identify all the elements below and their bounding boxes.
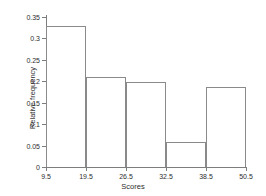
- x-tick-label: 9.5: [41, 173, 51, 180]
- x-tick-label: 50.5: [239, 173, 253, 180]
- y-tick-label: 0: [36, 164, 40, 171]
- x-tick-mark: [86, 167, 87, 171]
- x-tick-label: 32.5: [159, 173, 173, 180]
- bars-group: [46, 17, 246, 167]
- histogram-bar: [46, 26, 86, 167]
- y-tick-label: 0.35: [26, 14, 40, 21]
- y-tick-label: 0.3: [30, 35, 40, 42]
- x-tick-mark: [166, 167, 167, 171]
- x-tick-mark: [246, 167, 247, 171]
- x-tick-mark: [46, 167, 47, 171]
- x-tick-label: 26.5: [119, 173, 133, 180]
- x-tick-mark: [206, 167, 207, 171]
- y-tick-label: 0.05: [26, 142, 40, 149]
- x-tick-label: 38.5: [199, 173, 213, 180]
- x-tick-label: 19.5: [79, 173, 93, 180]
- x-tick-mark: [126, 167, 127, 171]
- y-axis-title: Relative frequency: [29, 67, 37, 129]
- y-tick-label: 0.25: [26, 56, 40, 63]
- histogram-bar: [86, 77, 126, 167]
- histogram-bar: [206, 87, 246, 167]
- histogram-chart: 00.050.10.150.20.250.30.35 9.519.526.532…: [0, 0, 266, 196]
- histogram-bar: [166, 142, 206, 167]
- x-axis-title: Scores: [0, 183, 266, 191]
- histogram-bar: [126, 82, 166, 167]
- x-axis-line: [46, 167, 246, 168]
